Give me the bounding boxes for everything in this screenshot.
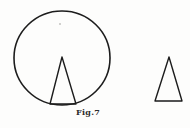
figure-sheet: Fig.7 bbox=[0, 0, 190, 128]
figure-caption: Fig.7 bbox=[76, 107, 100, 117]
paper-speck bbox=[59, 23, 61, 25]
